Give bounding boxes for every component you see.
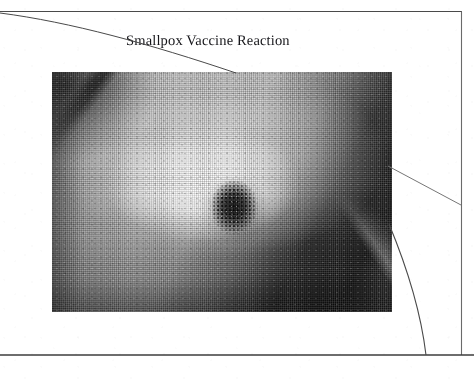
- clinical-photograph: [52, 72, 392, 312]
- lower-right-arc: [389, 224, 426, 355]
- scanned-page: Smallpox Vaccine Reaction: [0, 0, 474, 386]
- figure-caption: Smallpox Vaccine Reaction: [126, 33, 290, 50]
- photo-contrast-layer: [52, 72, 392, 312]
- right-diagonal-rule: [388, 166, 461, 205]
